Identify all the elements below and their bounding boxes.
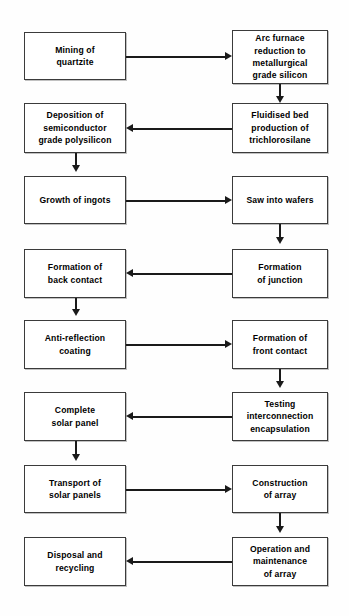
node-growth-of-ingots[interactable]: Growth of ingots bbox=[24, 176, 126, 224]
arrowhead-down-icon bbox=[72, 165, 80, 172]
edge-testing-to-complete-panel bbox=[133, 416, 232, 418]
node-formation-of-back-contact[interactable]: Formation of back contact bbox=[24, 249, 126, 298]
arrowhead-down-icon bbox=[276, 381, 284, 388]
node-testing-interconnection-encapsulation[interactable]: Testing interconnection encapsulation bbox=[232, 392, 328, 441]
arrowhead-left-icon bbox=[126, 412, 133, 420]
node-label: Disposal and recycling bbox=[47, 549, 102, 574]
node-label: Deposition of semiconductor grade polysi… bbox=[38, 109, 111, 146]
edge-junction-to-back-contact bbox=[133, 273, 232, 275]
node-label: Anti-reflection coating bbox=[45, 332, 106, 357]
arrowhead-right-icon bbox=[225, 340, 232, 348]
node-transport-of-solar-panels[interactable]: Transport of solar panels bbox=[24, 465, 126, 513]
edge-fluidised-to-deposition bbox=[133, 128, 232, 130]
node-label: Mining of quartzite bbox=[55, 44, 95, 69]
node-mining-of-quartzite[interactable]: Mining of quartzite bbox=[24, 32, 126, 80]
edge-anti-reflection-to-front-contact bbox=[126, 344, 225, 346]
node-label: Transport of solar panels bbox=[49, 477, 101, 502]
arrowhead-down-icon bbox=[72, 454, 80, 461]
node-saw-into-wafers[interactable]: Saw into wafers bbox=[232, 176, 328, 224]
node-label: Saw into wafers bbox=[246, 194, 313, 206]
edge-front-contact-to-testing bbox=[279, 369, 281, 381]
edge-transport-to-construction bbox=[126, 489, 225, 491]
node-label: Formation of front contact bbox=[253, 332, 307, 357]
node-label: Fluidised bed production of trichlorosil… bbox=[249, 109, 310, 146]
edge-complete-panel-to-transport bbox=[75, 441, 77, 454]
edge-arc-furnace-to-fluidised bbox=[279, 84, 281, 96]
arrowhead-right-icon bbox=[225, 485, 232, 493]
node-construction-of-array[interactable]: Construction of array bbox=[232, 465, 328, 513]
node-label: Complete solar panel bbox=[51, 404, 98, 429]
node-fluidised-bed-production[interactable]: Fluidised bed production of trichlorosil… bbox=[232, 103, 328, 153]
edge-construction-to-operation bbox=[279, 513, 281, 526]
edge-mining-to-arc-furnace bbox=[126, 56, 225, 58]
node-label: Operation and maintenance of array bbox=[250, 543, 310, 580]
node-anti-reflection-coating[interactable]: Anti-reflection coating bbox=[24, 320, 126, 369]
arrowhead-down-icon bbox=[276, 237, 284, 244]
node-label: Construction of array bbox=[252, 477, 307, 502]
edge-deposition-to-growth bbox=[75, 153, 77, 165]
node-label: Arc furnace reduction to metallurgical g… bbox=[253, 32, 308, 82]
node-arc-furnace-reduction[interactable]: Arc furnace reduction to metallurgical g… bbox=[232, 30, 328, 84]
arrowhead-left-icon bbox=[126, 557, 133, 565]
arrowhead-down-icon bbox=[72, 309, 80, 316]
arrowhead-down-icon bbox=[276, 526, 284, 533]
edge-back-contact-to-anti-reflection bbox=[75, 298, 77, 309]
arrowhead-left-icon bbox=[126, 269, 133, 277]
node-label: Testing interconnection encapsulation bbox=[247, 398, 314, 435]
arrowhead-left-icon bbox=[126, 124, 133, 132]
edge-operation-to-disposal bbox=[133, 561, 232, 563]
node-formation-of-junction[interactable]: Formation of junction bbox=[232, 249, 328, 298]
arrowhead-down-icon bbox=[276, 96, 284, 103]
arrowhead-right-icon bbox=[225, 52, 232, 60]
node-formation-of-front-contact[interactable]: Formation of front contact bbox=[232, 320, 328, 369]
node-complete-solar-panel[interactable]: Complete solar panel bbox=[24, 392, 126, 441]
node-label: Formation of junction bbox=[257, 261, 303, 286]
arrowhead-right-icon bbox=[225, 196, 232, 204]
edge-growth-to-saw bbox=[126, 200, 225, 202]
node-deposition-of-semiconductor[interactable]: Deposition of semiconductor grade polysi… bbox=[24, 103, 126, 153]
node-operation-and-maintenance-of-array[interactable]: Operation and maintenance of array bbox=[232, 537, 328, 586]
node-disposal-and-recycling[interactable]: Disposal and recycling bbox=[24, 537, 126, 586]
node-label: Formation of back contact bbox=[48, 261, 102, 286]
edge-saw-to-junction bbox=[279, 224, 281, 237]
node-label: Growth of ingots bbox=[39, 194, 110, 206]
flowchart-canvas: Mining of quartzite Arc furnace reductio… bbox=[0, 0, 349, 616]
